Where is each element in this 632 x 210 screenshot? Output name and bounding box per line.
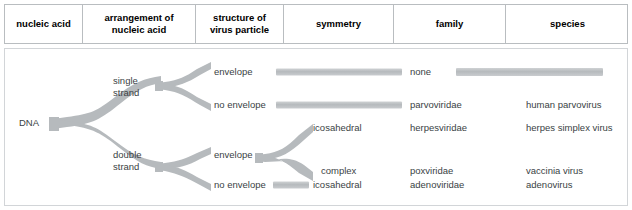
connector-double-strand-fork — [155, 144, 215, 200]
header-label-species: species — [550, 18, 585, 30]
header-label-symmetry: symmetry — [316, 18, 361, 30]
header-label-structure: structure of virus particle — [210, 12, 269, 36]
node-double-strand: double strand — [113, 149, 142, 172]
node-no-envelope-single: no envelope — [214, 99, 266, 111]
header-label-family: family — [436, 18, 463, 30]
column-header-symmetry: symmetry — [283, 5, 393, 43]
node-family-herpesviridae: herpesviridae — [410, 122, 467, 134]
connector-bar-none-species — [456, 68, 603, 76]
column-header-structure: structure of virus particle — [195, 5, 283, 43]
virus-classification-diagram: nucleic acid arrangement of nucleic acid… — [0, 0, 632, 210]
header-label-structure-line2: virus particle — [210, 24, 269, 35]
node-dna: DNA — [19, 117, 39, 129]
node-symmetry-none: none — [410, 66, 431, 78]
column-header-species: species — [505, 5, 629, 43]
node-double-strand-line2: strand — [113, 161, 139, 172]
connector-single-strand-fork — [155, 59, 215, 121]
column-header-nucleic-acid: nucleic acid — [5, 5, 82, 43]
node-family-parvoviridae: parvoviridae — [410, 99, 462, 111]
node-species-herpes-simplex-virus: herpes simplex virus — [526, 122, 613, 134]
header-label-arrangement-line1: arrangement of — [104, 12, 173, 23]
node-icosahedral-lower: icosahedral — [313, 179, 362, 191]
node-species-adenovirus: adenovirus — [526, 179, 572, 191]
header-label-structure-line1: structure of — [213, 12, 266, 23]
node-species-vaccinia-virus: vaccinia virus — [526, 165, 583, 177]
column-header-arrangement: arrangement of nucleic acid — [82, 5, 195, 43]
header-label-nucleic-acid: nucleic acid — [16, 18, 70, 30]
header-row: nucleic acid arrangement of nucleic acid… — [4, 4, 628, 44]
connector-bar-envelope-none — [276, 69, 402, 76]
header-label-arrangement-line2: nucleic acid — [112, 24, 166, 35]
node-complex: complex — [321, 165, 356, 177]
node-family-poxviridae: poxviridae — [410, 165, 453, 177]
connector-bar-noenvelope-icosahedral — [273, 182, 309, 189]
connector-envelope-symmetry-fork — [255, 121, 317, 183]
header-label-arrangement: arrangement of nucleic acid — [104, 12, 173, 36]
diagram-body: DNA single strand double strand envelope… — [4, 48, 628, 206]
node-single-strand-line2: strand — [113, 87, 139, 98]
node-envelope-single: envelope — [214, 66, 253, 78]
node-no-envelope-double: no envelope — [214, 179, 266, 191]
connector-dna-fork — [49, 67, 165, 187]
node-icosahedral-upper: icosahedral — [313, 122, 362, 134]
connector-bar-noenvelope-parvoviridae — [276, 102, 402, 109]
node-double-strand-line1: double — [113, 149, 142, 160]
node-family-adenoviridae: adenoviridae — [410, 179, 464, 191]
node-envelope-double: envelope — [214, 149, 253, 161]
column-header-family: family — [393, 5, 505, 43]
node-species-human-parvovirus: human parvovirus — [526, 99, 602, 111]
node-single-strand-line1: single — [113, 75, 138, 86]
node-single-strand: single strand — [113, 75, 139, 98]
